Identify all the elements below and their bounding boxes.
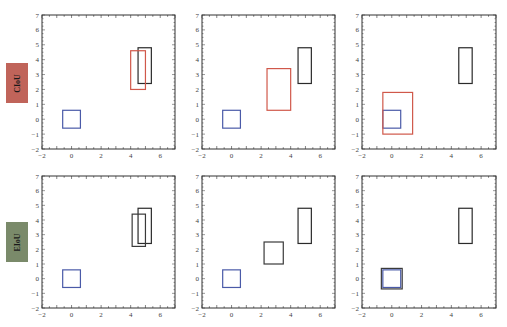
plot-frame	[42, 176, 175, 308]
x-tick-label: 0	[70, 311, 74, 319]
x-tick-label: −2	[38, 152, 46, 160]
y-tick-label: 1	[356, 101, 360, 109]
y-tick-label: 7	[36, 12, 40, 20]
y-tick-label: 2	[196, 246, 200, 254]
y-tick-label: 5	[36, 41, 40, 49]
plot-panel-eiou-2: −20246−2−101234567	[188, 172, 339, 320]
y-tick-label: 3	[36, 231, 40, 239]
y-tick-label: 1	[196, 261, 200, 269]
x-tick-label: 4	[129, 311, 133, 319]
x-tick-label: 4	[450, 311, 454, 319]
x-tick-label: −2	[198, 152, 206, 160]
y-tick-label: −1	[192, 290, 200, 298]
x-tick-label: 6	[479, 311, 483, 319]
x-tick-label: 6	[479, 152, 483, 160]
y-tick-label: −2	[32, 146, 40, 154]
y-tick-label: 4	[356, 217, 360, 225]
plot-frame	[362, 15, 496, 149]
y-tick-label: 4	[196, 56, 200, 64]
y-tick-label: 0	[36, 116, 40, 124]
y-tick-label: 6	[196, 26, 200, 34]
y-tick-label: 5	[196, 41, 200, 49]
x-tick-label: 0	[390, 152, 394, 160]
x-tick-label: 0	[230, 311, 234, 319]
plot-panel-eiou-1: −20246−2−101234567	[28, 172, 179, 320]
x-tick-label: 0	[230, 152, 234, 160]
x-tick-label: 4	[450, 152, 454, 160]
y-tick-label: 6	[356, 187, 360, 195]
x-tick-label: −2	[358, 311, 366, 319]
y-tick-label: 2	[196, 86, 200, 94]
y-tick-label: 7	[356, 173, 360, 181]
y-tick-label: 5	[36, 202, 40, 210]
plot-panel-ciou-3: −20246−2−101234567	[348, 11, 500, 161]
y-tick-label: 1	[36, 101, 40, 109]
x-tick-label: 4	[289, 152, 293, 160]
y-tick-label: −2	[352, 146, 360, 154]
plot-frame	[42, 15, 175, 149]
y-tick-label: 2	[36, 246, 40, 254]
y-tick-label: −1	[192, 131, 200, 139]
y-tick-label: −2	[192, 146, 200, 154]
plot-panel-eiou-3: −20246−2−101234567	[348, 172, 500, 320]
y-tick-label: 1	[36, 261, 40, 269]
x-tick-label: 4	[289, 311, 293, 319]
y-tick-label: 5	[356, 41, 360, 49]
x-tick-label: −2	[358, 152, 366, 160]
x-tick-label: 6	[158, 311, 162, 319]
y-tick-label: 7	[36, 173, 40, 181]
y-tick-label: 6	[36, 187, 40, 195]
y-tick-label: 7	[196, 12, 200, 20]
row-label-ciou: CIoU	[6, 63, 28, 103]
y-tick-label: 7	[356, 12, 360, 20]
y-tick-label: 6	[356, 26, 360, 34]
y-tick-label: 3	[196, 71, 200, 79]
row-label-eiou: EIoU	[6, 222, 28, 262]
plot-panel-ciou-1: −20246−2−101234567	[28, 11, 179, 161]
y-tick-label: 3	[36, 71, 40, 79]
y-tick-label: 0	[196, 275, 200, 283]
y-tick-label: −2	[32, 305, 40, 313]
x-tick-label: 2	[99, 311, 103, 319]
y-tick-label: 2	[36, 86, 40, 94]
x-tick-label: 2	[420, 152, 424, 160]
y-tick-label: 3	[356, 231, 360, 239]
x-tick-label: 2	[99, 152, 103, 160]
x-tick-label: 6	[318, 152, 322, 160]
x-tick-label: 0	[390, 311, 394, 319]
y-tick-label: 2	[356, 86, 360, 94]
x-tick-label: 4	[129, 152, 133, 160]
y-tick-label: −1	[32, 290, 40, 298]
y-tick-label: −2	[192, 305, 200, 313]
row-label-ciou-text: CIoU	[12, 74, 21, 93]
x-tick-label: 0	[70, 152, 74, 160]
y-tick-label: 3	[196, 231, 200, 239]
plot-panel-ciou-2: −20246−2−101234567	[188, 11, 339, 161]
x-tick-label: −2	[198, 311, 206, 319]
y-tick-label: 5	[356, 202, 360, 210]
y-tick-label: −2	[352, 305, 360, 313]
y-tick-label: 4	[36, 217, 40, 225]
y-tick-label: 4	[196, 217, 200, 225]
y-tick-label: −1	[352, 290, 360, 298]
x-tick-label: 2	[259, 311, 263, 319]
y-tick-label: 4	[356, 56, 360, 64]
y-tick-label: 1	[196, 101, 200, 109]
y-tick-label: 6	[36, 26, 40, 34]
x-tick-label: 2	[259, 152, 263, 160]
x-tick-label: 6	[318, 311, 322, 319]
y-tick-label: 3	[356, 71, 360, 79]
y-tick-label: 2	[356, 246, 360, 254]
x-tick-label: −2	[38, 311, 46, 319]
plot-frame	[362, 176, 496, 308]
y-tick-label: 5	[196, 202, 200, 210]
plot-frame	[202, 15, 335, 149]
y-tick-label: 0	[356, 116, 360, 124]
x-tick-label: 2	[420, 311, 424, 319]
y-tick-label: 6	[196, 187, 200, 195]
y-tick-label: 0	[196, 116, 200, 124]
row-label-eiou-text: EIoU	[12, 233, 21, 251]
x-tick-label: 6	[158, 152, 162, 160]
y-tick-label: 0	[356, 275, 360, 283]
y-tick-label: 7	[196, 173, 200, 181]
